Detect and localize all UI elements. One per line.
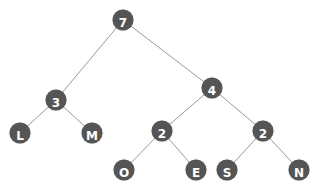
tree-node-leaf: E (186, 160, 207, 181)
tree-node-leaf: L (10, 123, 31, 144)
node-label: N (294, 166, 304, 178)
tree-node-internal: 4 (202, 78, 223, 99)
node-label: 2 (259, 127, 267, 139)
node-label: S (223, 166, 232, 178)
node-label: O (119, 166, 129, 178)
tree-node-internal: 2 (253, 121, 274, 142)
tree-node-leaf: S (217, 160, 238, 181)
tree-node-leaf: N (289, 160, 310, 181)
tree-node-internal: 3 (46, 90, 67, 111)
tree-edge (123, 20, 212, 88)
tree-node-internal: 2 (152, 121, 173, 142)
node-label: 2 (158, 127, 166, 139)
node-label: L (16, 129, 24, 141)
node-label: E (192, 166, 200, 178)
tree-node-leaf: M (82, 123, 103, 144)
node-label: 4 (208, 84, 216, 96)
node-label: 7 (119, 16, 127, 28)
tree-node-root: 7 (113, 10, 134, 31)
node-label: M (86, 129, 98, 141)
tree-edge (56, 20, 123, 100)
node-label: 3 (52, 96, 60, 108)
tree-node-leaf: O (114, 160, 135, 181)
